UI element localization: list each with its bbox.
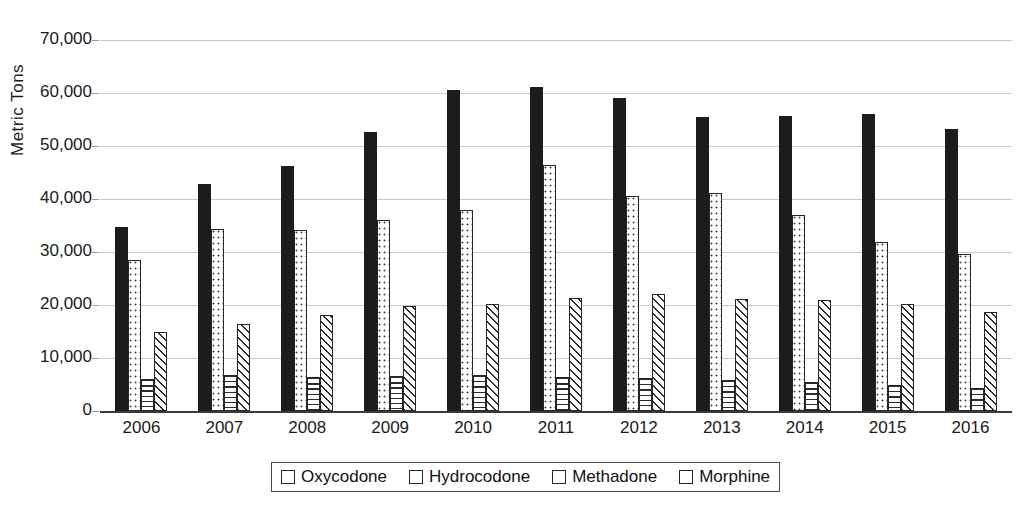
- y-axis-tick-label: 0: [6, 400, 92, 420]
- bar-morphine-2008: [320, 315, 333, 411]
- bar-methadone-2012: [639, 378, 652, 411]
- bar-hydrocodone-2013: [709, 193, 722, 411]
- legend-item-morphine[interactable]: Morphine: [679, 467, 770, 487]
- x-axis-tick-label: 2007: [189, 418, 259, 438]
- y-axis-tick-label: 60,000: [6, 82, 92, 102]
- x-axis-tick-label: 2009: [355, 418, 425, 438]
- bar-group: [613, 40, 665, 411]
- x-axis-tick-label: 2014: [770, 418, 840, 438]
- legend-swatch-icon: [679, 470, 693, 484]
- legend-item-oxycodone[interactable]: Oxycodone: [281, 467, 387, 487]
- bar-oxycodone-2013: [696, 117, 709, 411]
- legend-item-label: Morphine: [699, 467, 770, 487]
- bar-oxycodone-2006: [115, 227, 128, 411]
- bar-methadone-2009: [390, 376, 403, 411]
- bar-methadone-2016: [971, 388, 984, 411]
- bar-oxycodone-2010: [447, 90, 460, 411]
- y-axis-tick-mark: [92, 93, 99, 94]
- bar-methadone-2008: [307, 377, 320, 411]
- bar-morphine-2014: [818, 300, 831, 411]
- bar-morphine-2007: [237, 324, 250, 411]
- x-axis-tick-label: 2010: [438, 418, 508, 438]
- x-axis-tick-label: 2013: [687, 418, 757, 438]
- bar-oxycodone-2016: [945, 129, 958, 411]
- bar-group: [779, 40, 831, 411]
- bar-group: [447, 40, 499, 411]
- bar-group: [115, 40, 167, 411]
- x-axis-labels: 2006200720082009201020112012201320142015…: [100, 418, 1012, 444]
- bar-group: [530, 40, 582, 411]
- bar-morphine-2011: [569, 298, 582, 411]
- bar-methadone-2011: [556, 377, 569, 411]
- bar-morphine-2012: [652, 294, 665, 411]
- plot-area: [100, 40, 1012, 411]
- bar-group: [198, 40, 250, 411]
- bar-hydrocodone-2016: [958, 254, 971, 411]
- bar-hydrocodone-2007: [211, 229, 224, 411]
- y-axis-tick-mark: [92, 411, 99, 412]
- bar-hydrocodone-2012: [626, 196, 639, 411]
- bar-group: [364, 40, 416, 411]
- bar-morphine-2015: [901, 304, 914, 411]
- bar-oxycodone-2008: [281, 166, 294, 411]
- y-axis-tick-mark: [92, 40, 99, 41]
- x-axis-tick-label: 2012: [604, 418, 674, 438]
- bar-morphine-2016: [984, 312, 997, 411]
- x-axis-tick-label: 2011: [521, 418, 591, 438]
- legend-item-label: Oxycodone: [301, 467, 387, 487]
- y-axis-tick-mark: [92, 146, 99, 147]
- bar-morphine-2009: [403, 306, 416, 411]
- bar-group: [862, 40, 914, 411]
- y-axis-tick-mark: [92, 199, 99, 200]
- y-axis-tick-label: 50,000: [6, 135, 92, 155]
- x-axis-tick-label: 2008: [272, 418, 342, 438]
- y-axis-tick-mark: [92, 305, 99, 306]
- bar-oxycodone-2009: [364, 132, 377, 411]
- bar-oxycodone-2015: [862, 114, 875, 411]
- y-axis-tick-mark: [92, 358, 99, 359]
- bar-group: [696, 40, 748, 411]
- bar-hydrocodone-2006: [128, 260, 141, 411]
- bar-methadone-2010: [473, 375, 486, 411]
- y-axis-tick-label: 40,000: [6, 188, 92, 208]
- legend-item-label: Methadone: [572, 467, 657, 487]
- x-axis-line: [100, 411, 1012, 413]
- bar-methadone-2015: [888, 385, 901, 412]
- bar-morphine-2006: [154, 332, 167, 411]
- x-axis-tick-label: 2015: [853, 418, 923, 438]
- bar-hydrocodone-2011: [543, 165, 556, 411]
- bar-oxycodone-2012: [613, 98, 626, 411]
- bar-methadone-2007: [224, 375, 237, 411]
- y-axis-ticks: 010,00020,00030,00040,00050,00060,00070,…: [0, 40, 92, 411]
- bar-group: [945, 40, 997, 411]
- legend-swatch-icon: [281, 470, 295, 484]
- bar-oxycodone-2007: [198, 184, 211, 411]
- bar-hydrocodone-2009: [377, 220, 390, 411]
- x-axis-tick-label: 2006: [106, 418, 176, 438]
- chart-legend: OxycodoneHydrocodoneMethadoneMorphine: [271, 462, 780, 492]
- bar-methadone-2006: [141, 379, 154, 411]
- bar-chart: Metric Tons 010,00020,00030,00040,00050,…: [0, 0, 1026, 521]
- y-axis-tick-label: 20,000: [6, 294, 92, 314]
- bar-hydrocodone-2014: [792, 215, 805, 411]
- bar-oxycodone-2011: [530, 87, 543, 411]
- bar-hydrocodone-2015: [875, 242, 888, 411]
- y-axis-tick-label: 10,000: [6, 347, 92, 367]
- x-axis-tick-label: 2016: [936, 418, 1006, 438]
- bar-oxycodone-2014: [779, 116, 792, 411]
- legend-swatch-icon: [409, 470, 423, 484]
- bar-methadone-2014: [805, 382, 818, 411]
- legend-item-label: Hydrocodone: [429, 467, 530, 487]
- bar-group: [281, 40, 333, 411]
- bar-morphine-2013: [735, 299, 748, 411]
- y-axis-tick-label: 30,000: [6, 241, 92, 261]
- y-axis-tick-mark: [92, 252, 99, 253]
- bar-hydrocodone-2008: [294, 230, 307, 411]
- legend-item-methadone[interactable]: Methadone: [552, 467, 657, 487]
- legend-item-hydrocodone[interactable]: Hydrocodone: [409, 467, 530, 487]
- legend-swatch-icon: [552, 470, 566, 484]
- bar-methadone-2013: [722, 380, 735, 411]
- y-axis-tick-label: 70,000: [6, 29, 92, 49]
- bar-morphine-2010: [486, 304, 499, 411]
- bar-hydrocodone-2010: [460, 210, 473, 411]
